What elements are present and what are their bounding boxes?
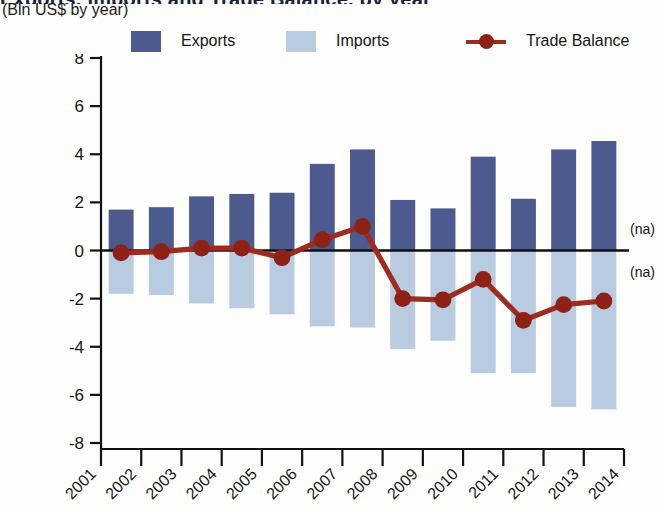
bar-imports [350, 251, 375, 328]
bar-exports [471, 157, 496, 251]
bar-exports [430, 208, 455, 250]
trade-balance-point [475, 271, 492, 288]
x-axis-tick-label: 2009 [384, 465, 421, 502]
legend-item-trade-balance[interactable]: Trade Balance [466, 28, 629, 54]
bar-imports [229, 251, 254, 309]
legend-label-trade-balance: Trade Balance [526, 32, 629, 50]
y-axis-tick-label: 4 [75, 145, 84, 164]
trade-balance-point [435, 291, 452, 308]
x-axis-tick-label: 2001 [62, 465, 99, 502]
y-axis-tick-label: 0 [75, 242, 84, 261]
x-axis-tick-label: 2014 [585, 465, 622, 502]
x-axis-tick-label: 2012 [504, 465, 541, 502]
chart-page: Exports, Imports and Trade Balance, by y… [0, 0, 662, 510]
bar-exports [390, 200, 415, 251]
legend-swatch-exports-icon [131, 31, 161, 52]
y-axis-tick-label: 2 [75, 193, 84, 212]
trade-balance-point [274, 249, 291, 266]
legend-item-exports[interactable]: Exports [131, 28, 235, 54]
bar-imports [189, 251, 214, 304]
trade-balance-point [596, 293, 613, 310]
trade-balance-point [515, 312, 532, 329]
legend-label-imports: Imports [336, 32, 389, 50]
x-axis-tick-label: 2003 [142, 465, 179, 502]
trade-balance-point [193, 240, 210, 257]
trade-balance-point [233, 240, 250, 257]
bar-imports [591, 251, 616, 410]
x-axis-tick-label: 2002 [102, 465, 139, 502]
bar-imports [471, 251, 496, 374]
x-axis-tick-label: 2008 [344, 465, 381, 502]
x-axis-tick-label: 2006 [263, 465, 300, 502]
y-axis-tick-label: 6 [75, 97, 84, 116]
y-axis-tick-label: -2 [69, 290, 84, 309]
legend-line-dot-icon [466, 31, 506, 52]
annotation-na: (na) [630, 264, 655, 280]
bar-exports [109, 210, 134, 251]
bar-exports [511, 199, 536, 251]
chart-legend: Exports Imports Trade Balance [0, 28, 662, 54]
chart-plot-area: 86420-2-4-6-8(na)(na)2001200220032004200… [0, 54, 662, 510]
trade-balance-point [113, 245, 130, 262]
bar-exports [350, 149, 375, 250]
y-axis-tick-label: -4 [69, 338, 84, 357]
bar-imports [310, 251, 335, 327]
annotation-na: (na) [630, 221, 655, 237]
trade-balance-point [314, 231, 331, 248]
chart-svg: 86420-2-4-6-8(na)(na)2001200220032004200… [0, 54, 662, 510]
y-axis-tick-label: -8 [69, 434, 84, 453]
legend-label-exports: Exports [181, 32, 235, 50]
trade-balance-point [354, 218, 371, 235]
trade-balance-point [394, 290, 411, 307]
y-axis-tick-label: 8 [75, 54, 84, 68]
legend-item-imports[interactable]: Imports [286, 28, 389, 54]
x-axis-tick-label: 2010 [424, 465, 461, 502]
x-axis-tick-label: 2005 [223, 465, 260, 502]
bar-imports [551, 251, 576, 407]
x-axis-tick-label: 2013 [545, 465, 582, 502]
trade-balance-point [153, 243, 170, 260]
x-axis-tick-label: 2004 [183, 465, 220, 502]
y-axis-tick-label: -6 [69, 386, 84, 405]
legend-swatch-imports-icon [286, 31, 316, 52]
bar-exports [551, 149, 576, 250]
trade-balance-point [555, 296, 572, 313]
x-axis-tick-label: 2011 [465, 465, 501, 501]
bar-exports [591, 141, 616, 250]
bar-exports [270, 193, 295, 251]
chart-subtitle: (Bln US$ by year) [2, 1, 128, 19]
x-axis-tick-label: 2007 [303, 465, 340, 502]
